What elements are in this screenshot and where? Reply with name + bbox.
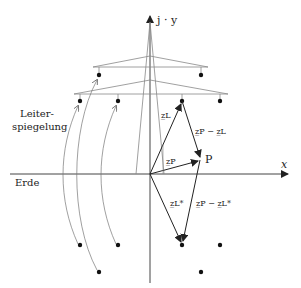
mirror-conductor-dot [199, 270, 203, 274]
conductor-dot [78, 99, 82, 103]
conductor-dot [199, 73, 203, 77]
mirror-conductor-dot [218, 243, 222, 247]
conductor-dot [116, 99, 120, 103]
mirroring-arcs [63, 80, 116, 270]
mirroring-label-line1: Leiter- [20, 108, 54, 119]
z-L-label: z̲L [161, 111, 171, 120]
mirror-conductor-dot [180, 243, 184, 247]
z-P-minus-z-L-conj-label: z̲P − z̲L* [196, 199, 231, 208]
mirror-conductor-dot [97, 270, 101, 274]
z-L-conj-label: z̲L* [170, 199, 184, 208]
point-P-label: P [205, 153, 213, 166]
x-axis-label: x [281, 158, 288, 171]
diagram-canvas: j · y x Leiter- spiegelung Erde P z̲L z̲… [0, 0, 301, 288]
z-P-minus-z-L-label: z̲P − z̲L [195, 127, 227, 136]
transmission-tower [74, 22, 228, 174]
mirror-conductor-dot [78, 243, 82, 247]
conductor-dot [218, 99, 222, 103]
y-axis-label: j · y [155, 14, 178, 27]
conductor-dot [97, 73, 101, 77]
ground-label: Erde [15, 177, 39, 188]
vectors [150, 101, 200, 242]
z-P-label: z̲P [166, 157, 176, 166]
mirroring-label-line2: spiegelung [12, 121, 68, 132]
vector-z-L-conj [150, 174, 181, 242]
mirror-conductor-dot [116, 243, 120, 247]
